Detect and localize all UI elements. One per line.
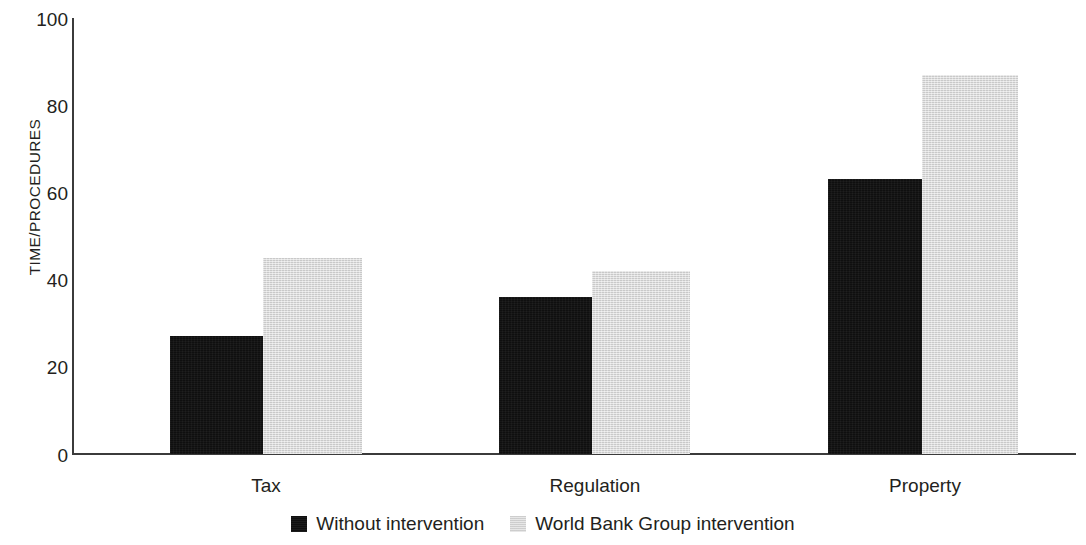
legend-label-without-intervention: Without intervention: [316, 514, 484, 533]
bar-regulation-world-bank-group-intervention: [592, 271, 690, 454]
chart-legend: Without intervention World Bank Group in…: [0, 514, 1086, 533]
bar-property-world-bank-group-intervention: [922, 75, 1018, 454]
legend-label-world-bank-group-intervention: World Bank Group intervention: [535, 514, 794, 533]
plot-area: [74, 18, 1076, 454]
y-tick-label-0: 0: [6, 446, 68, 465]
x-category-label-regulation: Regulation: [535, 476, 655, 495]
light-square-swatch-icon: [510, 516, 526, 532]
legend-item-without-intervention: Without intervention: [291, 514, 484, 533]
bar-tax-without-intervention: [170, 336, 263, 454]
dark-square-swatch-icon: [291, 516, 307, 532]
bar-tax-world-bank-group-intervention: [263, 258, 362, 454]
bar-property-without-intervention: [828, 179, 922, 454]
legend-item-world-bank-group-intervention: World Bank Group intervention: [510, 514, 794, 533]
y-tick-label-80: 80: [6, 97, 68, 116]
bar-regulation-without-intervention: [499, 297, 592, 454]
x-category-label-tax: Tax: [206, 476, 326, 495]
y-tick-label-60: 60: [6, 184, 68, 203]
y-tick-label-100: 100: [6, 10, 68, 29]
x-category-label-property: Property: [865, 476, 985, 495]
y-tick-label-40: 40: [6, 271, 68, 290]
bar-chart: TIME/PROCEDURES 100 80 60 40 20 0 Tax Re…: [0, 0, 1086, 545]
y-tick-label-20: 20: [6, 358, 68, 377]
